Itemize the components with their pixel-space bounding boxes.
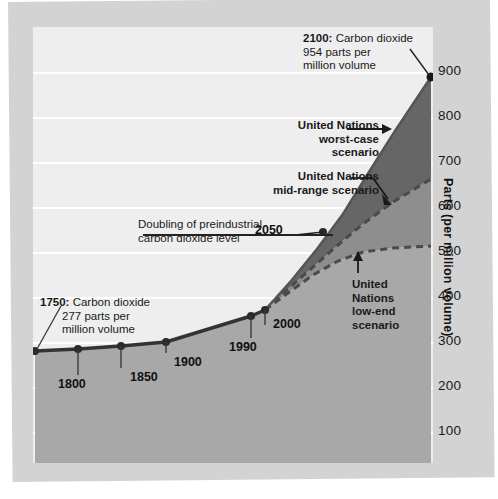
annotation-doubling-reference: Doubling of preindustrial carbon dioxide… — [138, 218, 266, 245]
year-label-1990: 1990 — [229, 340, 257, 354]
ytick-100: 100 — [438, 423, 461, 438]
ytick-200: 200 — [438, 378, 461, 393]
annotation-2100-line3: million volume — [303, 59, 376, 71]
annotation-1750-line2: 277 parts per — [40, 310, 190, 324]
annotation-1750-year: 1750: — [40, 296, 69, 308]
annotation-worst-line3: scenario — [332, 146, 379, 158]
annotation-low-line3: low-end — [352, 305, 395, 317]
annotation-low-end-scenario: United Nations low-end scenario — [352, 278, 416, 332]
annotation-1750-line1: Carbon dioxide — [73, 296, 150, 308]
annotation-2100-line1: Carbon dioxide — [336, 32, 413, 44]
annotation-mid-line2: mid-range scenario — [273, 184, 379, 196]
chart-page: 1800 1850 1900 1990 2000 2050 900 800 70… — [0, 0, 498, 499]
y-axis-title: Parts (per million volume) — [441, 178, 455, 337]
annotation-low-line4: scenario — [352, 319, 399, 331]
year-label-1800: 1800 — [58, 377, 86, 391]
year-label-1900: 1900 — [174, 355, 202, 369]
annotation-doubling-line2: carbon dioxide level — [138, 232, 240, 244]
annotation-mid-range-scenario: United Nations mid-range scenario — [245, 170, 379, 197]
annotation-2100: 2100: Carbon dioxide 954 parts per milli… — [303, 32, 435, 73]
annotation-low-line1: United — [352, 278, 388, 290]
ytick-800: 800 — [438, 108, 461, 123]
annotation-low-line2: Nations — [352, 292, 394, 304]
annotation-worst-line1: United Nations — [298, 119, 379, 131]
year-label-2000: 2000 — [273, 317, 301, 331]
annotation-2100-year: 2100: — [303, 32, 332, 44]
annotation-2100-line2: 954 parts per — [303, 46, 371, 58]
annotation-1750: 1750: Carbon dioxide 277 parts per milli… — [40, 296, 190, 337]
annotation-worst-line2: worst-case — [319, 133, 379, 145]
year-label-1850: 1850 — [130, 370, 158, 384]
ytick-900: 900 — [438, 63, 461, 78]
arrowhead-worst-case — [382, 124, 392, 134]
annotation-mid-line1: United Nations — [298, 170, 379, 182]
annotation-1750-line3: million volume — [40, 323, 190, 337]
ytick-700: 700 — [438, 153, 461, 168]
annotation-worst-case-scenario: United Nations worst-case scenario — [277, 119, 379, 160]
annotation-doubling-line1: Doubling of preindustrial — [138, 218, 262, 230]
